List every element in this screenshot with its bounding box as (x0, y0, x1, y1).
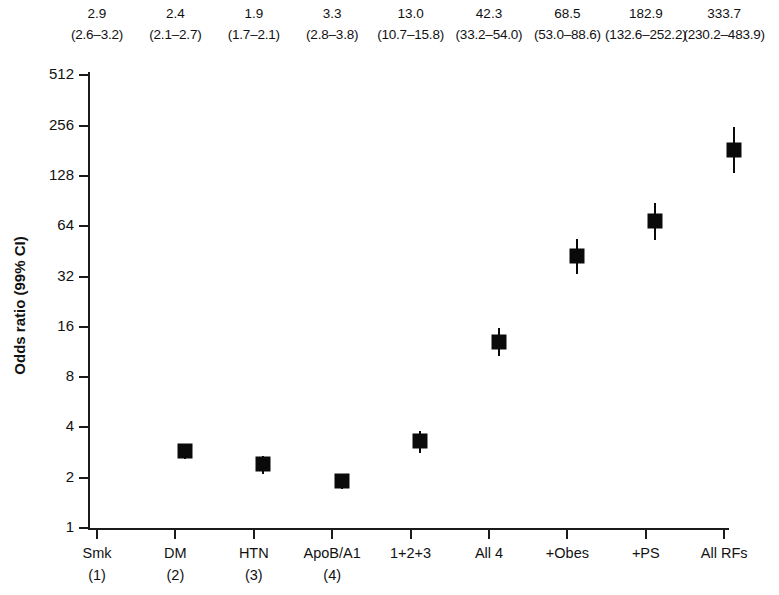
x-axis-tick-label-text: DM (164, 545, 187, 561)
x-axis-tick (410, 528, 412, 539)
x-axis-tick (331, 528, 333, 539)
y-axis-tick: 128 (79, 175, 88, 177)
y-axis-tick-label: 128 (49, 166, 74, 183)
data-point-marker (570, 249, 585, 264)
x-axis-tick (253, 528, 255, 539)
y-axis-tick: 256 (79, 125, 88, 127)
y-axis-tick: 16 (79, 326, 88, 328)
y-axis-tick-label: 512 (49, 65, 74, 82)
plot-area: 1248163264128256512 (88, 72, 728, 529)
odds-ratio-chart: 2.9(2.6–3.2)2.4(2.1–2.7)1.9(1.7–2.1)3.3(… (0, 0, 779, 595)
y-axis-tick: 1 (79, 527, 88, 529)
x-axis-tick-label-text: All 4 (475, 545, 503, 561)
annotation-column: 333.7(230.2–483.9) (675, 4, 773, 46)
annotation-confidence-interval: (230.2–483.9) (675, 25, 773, 46)
x-axis-tick (723, 528, 725, 539)
y-axis-tick-label: 32 (57, 267, 74, 284)
x-axis-tick-sublabel: (3) (239, 565, 269, 587)
data-point-marker (334, 474, 349, 489)
x-axis-tick-label: All RFs (701, 543, 748, 565)
x-axis-tick-label-text: HTN (239, 545, 269, 561)
x-axis-tick-label-text: +PS (632, 545, 660, 561)
x-axis-tick (645, 528, 647, 539)
y-axis-tick-label: 64 (57, 216, 74, 233)
x-axis-tick-label: ApoB/A1(4) (304, 543, 361, 587)
annotation-odds-ratio: 333.7 (675, 4, 773, 25)
y-axis-tick-label: 16 (57, 317, 74, 334)
data-point-marker (726, 142, 741, 157)
x-axis-tick-label: All 4 (475, 543, 503, 565)
x-axis-tick-label: HTN(3) (239, 543, 269, 587)
data-point-marker (491, 334, 506, 349)
x-axis-tick (174, 528, 176, 539)
x-axis-tick (566, 528, 568, 539)
y-axis-tick-label: 8 (66, 367, 74, 384)
data-point-marker (648, 214, 663, 229)
y-axis-tick: 32 (79, 276, 88, 278)
data-point-marker (256, 457, 271, 472)
y-axis-tick: 2 (79, 477, 88, 479)
y-axis-title: Odds ratio (99% CI) (6, 175, 32, 435)
y-axis-tick-label: 4 (66, 417, 74, 434)
y-axis-title-text: Odds ratio (99% CI) (11, 236, 28, 374)
x-axis-tick-sublabel: (4) (304, 565, 361, 587)
x-axis-tick-sublabel: (2) (164, 565, 187, 587)
x-axis-tick-label: Smk(1) (83, 543, 112, 587)
y-axis-tick: 8 (79, 376, 88, 378)
x-axis-tick-label-text: Smk (83, 545, 112, 561)
x-axis-tick-label: DM(2) (164, 543, 187, 587)
y-axis-tick-label: 2 (66, 468, 74, 485)
x-axis-tick-sublabel: (1) (83, 565, 112, 587)
x-axis-tick-label: +Obes (546, 543, 589, 565)
annotation-row: 2.9(2.6–3.2)2.4(2.1–2.7)1.9(1.7–2.1)3.3(… (0, 4, 779, 50)
y-axis-tick-label: 1 (66, 518, 74, 535)
y-axis-tick: 64 (79, 225, 88, 227)
x-axis-tick-label-text: +Obes (546, 545, 589, 561)
x-axis-tick-label-text: 1+2+3 (390, 545, 431, 561)
data-point-marker (178, 443, 193, 458)
data-point-marker (413, 434, 428, 449)
y-axis-tick-label: 256 (49, 116, 74, 133)
y-axis-tick: 4 (79, 426, 88, 428)
x-axis-tick-label-text: ApoB/A1 (304, 545, 361, 561)
x-axis-tick (96, 528, 98, 539)
x-axis-tick (488, 528, 490, 539)
x-axis-tick-label-text: All RFs (701, 545, 748, 561)
x-axis-tick-label: 1+2+3 (390, 543, 431, 565)
y-axis-tick: 512 (79, 74, 88, 76)
x-axis-tick-label: +PS (632, 543, 660, 565)
